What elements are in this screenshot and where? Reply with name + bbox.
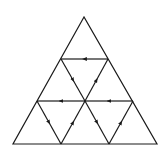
directed-edge-2 — [85, 80, 97, 101]
outer-triangle — [13, 17, 157, 144]
directed-edge-6 — [61, 123, 73, 145]
directed-edge-tail-6 — [73, 101, 85, 123]
directed-edge-5 — [37, 101, 49, 123]
directed-edge-tail-8 — [121, 101, 133, 123]
triangle-diagram — [0, 0, 168, 155]
directed-edge-tail-2 — [97, 59, 109, 80]
directed-edge-8 — [109, 123, 121, 145]
directed-edge-tail-7 — [97, 123, 109, 145]
directed-edge-tail-1 — [73, 80, 85, 101]
directed-edge-1 — [61, 59, 73, 80]
directed-edge-tail-5 — [49, 123, 61, 145]
directed-edge-7 — [85, 101, 97, 123]
